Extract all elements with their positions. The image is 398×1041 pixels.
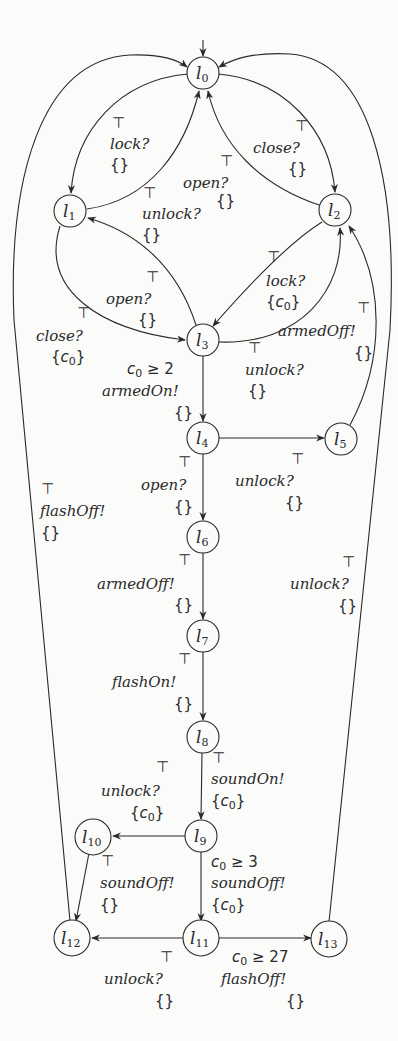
label-l4-l5: ⊤ unlock? {} [235, 450, 304, 512]
label-l10-l12: ⊤ soundOff! {} [100, 852, 175, 914]
svg-text:{c0}: {c0} [51, 348, 85, 368]
label-l7-l8: ⊤ flashOn! {} [111, 650, 193, 713]
svg-text:{}: {} [288, 160, 307, 178]
svg-text:{}: {} [248, 382, 267, 400]
svg-text:c0 ≥ 2: c0 ≥ 2 [127, 360, 174, 380]
svg-text:⊤: ⊤ [156, 758, 169, 776]
svg-text:armedOff!: armedOff! [97, 575, 175, 593]
svg-text:⊤: ⊤ [220, 152, 233, 170]
svg-text:soundOn!: soundOn! [211, 770, 285, 788]
svg-text:⊤: ⊤ [101, 852, 114, 870]
label-l12-l0-outer: ⊤ flashOff! {} [39, 480, 105, 542]
svg-text:lock?: lock? [110, 135, 150, 153]
svg-text:unlock?: unlock? [245, 361, 305, 379]
svg-text:close?: close? [253, 139, 301, 157]
svg-text:{}: {} [174, 404, 193, 422]
svg-text:c0 ≥ 27: c0 ≥ 27 [232, 948, 288, 968]
label-l13-l0-outer: ⊤ unlock? {} [290, 553, 357, 615]
svg-text:{}: {} [110, 156, 129, 174]
svg-text:unlock?: unlock? [235, 472, 295, 490]
svg-text:{}: {} [138, 311, 157, 329]
label-l8-l9: ⊤ soundOn! {c0} [211, 749, 285, 812]
svg-text:{}: {} [286, 992, 305, 1010]
svg-text:armedOn!: armedOn! [102, 382, 179, 400]
svg-text:⊤: ⊤ [291, 450, 304, 468]
svg-text:soundOff!: soundOff! [211, 874, 286, 892]
svg-text:open?: open? [106, 290, 152, 308]
svg-text:⊤: ⊤ [357, 299, 370, 317]
label-l4-l6: ⊤ open? {} [141, 453, 193, 516]
svg-text:⊤: ⊤ [342, 553, 355, 571]
label-l11-l13: c0 ≥ 27 flashOff! {} [220, 948, 305, 1010]
edge-l10-l12 [76, 853, 89, 921]
label-l3-l1: ⊤ open? {} [106, 268, 159, 329]
svg-text:{}: {} [174, 695, 193, 713]
svg-text:⊤: ⊤ [178, 650, 191, 668]
svg-text:unlock?: unlock? [101, 782, 161, 800]
svg-text:open?: open? [183, 174, 229, 192]
svg-text:armedOff!: armedOff! [278, 322, 356, 340]
svg-text:unlock?: unlock? [104, 970, 164, 988]
svg-text:⊤: ⊤ [160, 948, 173, 966]
svg-text:{}: {} [174, 498, 193, 516]
label-l9-l10: ⊤ unlock? {c0} [101, 758, 169, 824]
label-l3-l2: ⊤ unlock? {} [245, 339, 305, 400]
label-l3-l4: c0 ≥ 2 armedOn! {} [102, 360, 193, 422]
svg-text:flashOff!: flashOff! [220, 970, 286, 988]
svg-text:lock?: lock? [266, 272, 306, 290]
svg-text:{}: {} [41, 524, 60, 542]
label-l2-l0: ⊤ open? {} [183, 152, 235, 210]
svg-text:⊤: ⊤ [112, 114, 125, 132]
label-l1-l0: ⊤ unlock? {} [142, 184, 202, 244]
svg-text:{}: {} [100, 896, 119, 914]
label-l1-l3: ⊤ close? {c0} [36, 304, 90, 368]
svg-text:⊤: ⊤ [146, 268, 159, 286]
label-l11-l12: ⊤ unlock? {} [104, 948, 174, 1010]
edge-l8-l9 [201, 753, 202, 819]
svg-text:{}: {} [285, 494, 304, 512]
svg-text:soundOff!: soundOff! [100, 874, 175, 892]
svg-text:⊤: ⊤ [212, 749, 225, 767]
svg-text:⊤: ⊤ [178, 453, 191, 471]
svg-text:⊤: ⊤ [178, 551, 191, 569]
svg-text:flashOff!: flashOff! [39, 502, 105, 520]
svg-text:⊤: ⊤ [143, 184, 156, 202]
svg-text:flashOn!: flashOn! [111, 673, 176, 691]
svg-text:{}: {} [338, 597, 357, 615]
svg-text:{c0}: {c0} [266, 293, 300, 313]
svg-text:⊤: ⊤ [248, 339, 261, 357]
svg-text:{}: {} [155, 992, 174, 1010]
svg-text:open?: open? [141, 476, 187, 494]
label-l9-l11: c0 ≥ 3 soundOff! {c0} [211, 853, 286, 916]
svg-text:⊤: ⊤ [41, 480, 54, 498]
svg-text:{}: {} [174, 596, 193, 614]
svg-text:{}: {} [216, 192, 235, 210]
label-l6-l7: ⊤ armedOff! {} [97, 551, 193, 614]
edge-l0-l1 [71, 74, 188, 193]
label-l0-l1: ⊤ lock? {} [110, 114, 150, 174]
label-l0-l2: ⊤ close? {} [253, 117, 308, 178]
svg-text:{c0}: {c0} [211, 792, 245, 812]
edge-l1-l3 [56, 226, 185, 340]
svg-text:close?: close? [36, 327, 84, 345]
svg-text:unlock?: unlock? [142, 205, 202, 223]
svg-text:{c0}: {c0} [130, 804, 164, 824]
svg-text:{}: {} [354, 344, 373, 362]
svg-text:c0 ≥ 3: c0 ≥ 3 [211, 853, 258, 873]
svg-text:{c0}: {c0} [211, 896, 245, 916]
label-l2-l3: ⊤ lock? {c0} [266, 248, 306, 313]
svg-text:⊤: ⊤ [77, 304, 90, 322]
timed-automaton-diagram: l0 l1 l2 l3 l4 l5 l6 l7 l8 l9 l10 l11 l1… [0, 0, 398, 1041]
svg-text:⊤: ⊤ [267, 248, 280, 266]
edge-labels: ⊤ lock? {} ⊤ open? {} ⊤ close? {} ⊤ unlo… [36, 114, 373, 1010]
svg-text:{}: {} [142, 226, 161, 244]
svg-text:unlock?: unlock? [290, 575, 350, 593]
edge-l0-l2 [218, 74, 335, 192]
svg-text:⊤: ⊤ [295, 117, 308, 135]
